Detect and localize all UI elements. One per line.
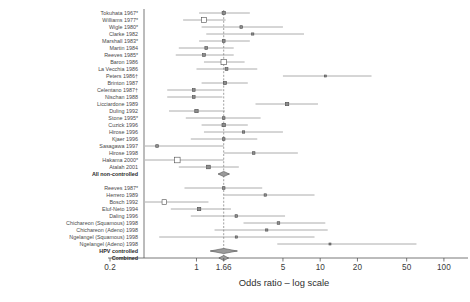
- study-row-label: Reeves 1985*: [0, 52, 142, 58]
- study-row-label: Kjaer 1996: [0, 136, 142, 142]
- summary-diamond: [218, 171, 229, 176]
- study-row-label: Ngelangel (Squamous) 1998: [0, 234, 142, 240]
- x-axis-tick-label: 20: [353, 263, 362, 272]
- study-row-label: Marshall 1983*: [0, 38, 142, 44]
- study-marker: [324, 75, 326, 77]
- study-row-label: Hirose 1998: [0, 150, 142, 156]
- study-row-label: Peters 1986†: [0, 73, 142, 79]
- study-marker: [222, 117, 225, 120]
- study-row-label: Martin 1984: [0, 45, 142, 51]
- study-row-label: Daling 1996: [0, 213, 142, 219]
- study-marker: [222, 138, 225, 141]
- study-row-label: Chichareon (Adeno) 1998: [0, 227, 142, 233]
- study-marker: [252, 152, 255, 155]
- study-marker: [222, 123, 225, 126]
- study-row-label: Herrero 1989: [0, 192, 142, 198]
- study-row-label: Clarke 1982: [0, 31, 142, 37]
- study-marker: [235, 236, 237, 238]
- study-row-label: Ngelangel (Adeno) 1998: [0, 241, 142, 247]
- study-marker: [192, 96, 195, 99]
- study-row-label: Licciardone 1989: [0, 101, 142, 107]
- forest-plot: Tokuhata 1967*Williams 1977*Wigle 1980*C…: [0, 0, 470, 302]
- study-marker: [242, 131, 244, 133]
- summary-diamond: [210, 248, 237, 253]
- study-marker: [240, 26, 243, 29]
- study-row-label: Wigle 1980*: [0, 24, 142, 30]
- study-marker: [329, 243, 331, 245]
- study-row-label: Reeves 1987*: [0, 185, 142, 191]
- study-marker: [252, 33, 254, 35]
- study-marker: [222, 187, 225, 190]
- x-axis-title: Odds ratio – log scale: [239, 277, 330, 288]
- study-row-label: Eluf-Neto 1994: [0, 206, 142, 212]
- study-marker: [192, 89, 195, 92]
- x-axis-tick-label: 0.2: [104, 263, 115, 272]
- study-row-label: Baron 1986: [0, 59, 142, 65]
- study-marker: [203, 54, 206, 57]
- study-row-label: Tokuhata 1967*: [0, 10, 142, 16]
- summary-row-label: Combined: [0, 255, 142, 261]
- summary-row-label: HPV controlled: [0, 248, 142, 254]
- x-axis-tick-label: 5: [281, 263, 286, 272]
- study-marker: [277, 222, 280, 225]
- study-row-label: Brinton 1987: [0, 80, 142, 86]
- study-marker: [264, 194, 266, 196]
- study-marker: [197, 207, 200, 210]
- study-row-label: Sasagawa 1997: [0, 143, 142, 149]
- study-row-label: Hakama 2000*: [0, 157, 142, 163]
- summary-row-label: All non-controlled: [0, 171, 142, 177]
- study-row-label: Cuzick 1996: [0, 122, 142, 128]
- study-marker: [223, 81, 226, 84]
- study-row-label: Williams 1977*: [0, 17, 142, 23]
- study-marker: [222, 11, 225, 14]
- x-axis-tick-label: 50: [402, 263, 411, 272]
- study-marker: [207, 165, 211, 169]
- study-row-label: Atalah 2001: [0, 164, 142, 170]
- x-axis-tick-label: 100: [437, 263, 451, 272]
- study-marker: [235, 215, 238, 218]
- x-axis-tick-label: 1: [194, 263, 199, 272]
- study-row-label: Nischan 1988: [0, 94, 142, 100]
- study-marker: [222, 40, 225, 43]
- study-row-label: Chichareon (Squamous) 1998: [0, 220, 142, 226]
- study-marker: [266, 229, 268, 231]
- study-marker: [175, 157, 181, 163]
- x-axis-tick-label: 1.66: [216, 263, 232, 272]
- study-row-label: La Vecchia 1986: [0, 66, 142, 72]
- study-marker: [285, 102, 288, 105]
- study-marker: [156, 145, 159, 148]
- study-marker: [221, 59, 226, 64]
- study-marker: [225, 68, 228, 71]
- study-marker: [205, 47, 208, 50]
- study-row-label: Stone 1995*: [0, 115, 142, 121]
- study-marker: [162, 200, 167, 205]
- study-marker: [201, 18, 206, 23]
- study-row-label: Hirose 1996: [0, 129, 142, 135]
- study-row-label: Bosch 1992: [0, 199, 142, 205]
- study-row-label: Duling 1992: [0, 108, 142, 114]
- study-row-label: Celentano 1987†: [0, 87, 142, 93]
- study-marker: [195, 109, 198, 112]
- x-axis-tick-label: 10: [316, 263, 325, 272]
